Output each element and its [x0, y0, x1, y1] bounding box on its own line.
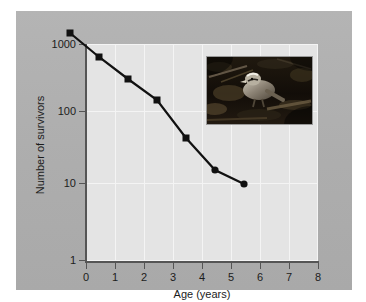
x-axis-tick — [86, 263, 87, 269]
x-axis-tick — [144, 263, 145, 269]
x-axis-tick — [115, 263, 116, 269]
y-axis-tick — [79, 111, 86, 112]
x-axis-tick — [260, 263, 261, 269]
x-axis-tick — [289, 263, 290, 269]
gridline-vertical — [202, 44, 203, 261]
y-axis-tick-label: 1 — [16, 255, 76, 266]
gridline-horizontal — [86, 183, 318, 184]
gridline-vertical — [115, 44, 116, 261]
x-axis-tick-label: 8 — [308, 271, 328, 283]
y-axis-tick-label: 1000 — [16, 39, 76, 50]
x-axis-tick-label: 5 — [221, 271, 241, 283]
y-axis-line — [85, 44, 87, 262]
inset-photo — [206, 56, 313, 125]
x-axis-tick — [231, 263, 232, 269]
inset-photo-image — [207, 57, 312, 124]
x-axis-tick-label: 3 — [163, 271, 183, 283]
y-axis-tick-label: 10 — [16, 178, 76, 189]
x-axis-tick — [173, 263, 174, 269]
figure-panel: 1000 100 10 1 0 1 2 3 4 5 6 7 8 Age (yea… — [16, 11, 352, 290]
gridline-vertical — [144, 44, 145, 261]
gridline-vertical — [317, 44, 318, 261]
y-axis-tick — [79, 183, 86, 184]
x-axis-tick-label: 1 — [105, 271, 125, 283]
y-axis-tick — [79, 260, 86, 261]
y-axis-tick-label: 100 — [16, 106, 76, 117]
x-axis-tick-label: 4 — [192, 271, 212, 283]
x-axis-title: Age (years) — [86, 288, 318, 300]
gridline-horizontal — [86, 44, 318, 45]
x-axis-tick — [318, 263, 319, 269]
gridline-vertical — [173, 44, 174, 261]
x-axis-tick-label: 0 — [76, 271, 96, 283]
y-axis-tick — [79, 44, 86, 45]
x-axis-tick — [202, 263, 203, 269]
y-axis-title: Number of survivors — [34, 85, 46, 205]
x-axis-tick-label: 6 — [250, 271, 270, 283]
x-axis-tick-label: 2 — [134, 271, 154, 283]
x-axis-tick-label: 7 — [279, 271, 299, 283]
